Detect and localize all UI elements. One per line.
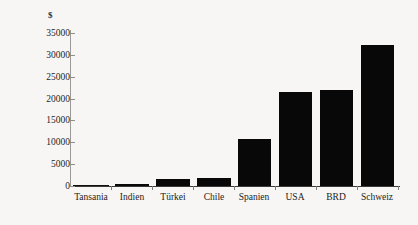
bar-indien [115,184,149,186]
y-tick-5000: 5000 [0,164,70,165]
y-tick-30000: 30000 [0,55,70,56]
bar-usa [279,92,312,186]
x-tick-mark-7 [398,186,399,190]
bar-spanien [238,139,271,186]
x-tick-mark-3 [234,186,235,190]
y-tick-mark-5000 [70,164,75,165]
y-tick-15000: 15000 [0,120,70,121]
bar-chart: $ 0 5000 10000 15000 20000 25000 30000 3… [0,0,418,225]
y-tick-25000: 25000 [0,77,70,78]
y-tick-mark-35000 [70,33,75,34]
y-tick-20000: 20000 [0,99,70,100]
y-tick-mark-10000 [70,142,75,143]
y-tick-mark-20000 [70,99,75,100]
bar-brd [320,90,353,186]
y-tick-mark-15000 [70,120,75,121]
y-tick-label-0: 0 [26,182,70,191]
y-tick-label-15000: 15000 [26,116,70,125]
bar-tuerkei [156,179,190,186]
x-tick-mark-5 [316,186,317,190]
bar-tansania [73,185,109,186]
y-tick-10000: 10000 [0,142,70,143]
y-tick-mark-25000 [70,77,75,78]
x-tick-mark-6 [357,186,358,190]
x-axis-line [70,186,400,187]
bar-chile [197,178,231,186]
y-tick-mark-30000 [70,55,75,56]
bar-schweiz [361,45,394,186]
y-tick-label-10000: 10000 [26,138,70,147]
x-tick-mark-4 [275,186,276,190]
x-tick-mark-1 [152,186,153,190]
y-tick-label-25000: 25000 [26,73,70,82]
y-axis-unit-label: $ [48,10,53,20]
x-label-schweiz: Schweiz [347,192,407,203]
y-tick-label-5000: 5000 [26,160,70,169]
x-tick-mark-0 [111,186,112,190]
y-tick-label-35000: 35000 [26,29,70,38]
x-tick-mark-2 [193,186,194,190]
y-tick-label-20000: 20000 [26,95,70,104]
y-tick-mark-0 [70,186,75,187]
y-tick-label-30000: 30000 [26,51,70,60]
y-tick-35000: 35000 [0,33,70,34]
y-tick-0: 0 [0,186,70,187]
